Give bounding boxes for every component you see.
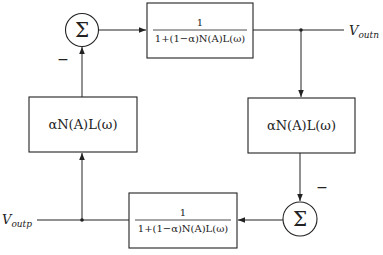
feedback-right-block: αN(A)L(ω) [248, 98, 355, 153]
sum-bottom: Σ [283, 202, 317, 236]
forward-bottom-numerator: 1 [180, 207, 186, 218]
forward-bottom-rect [129, 193, 237, 248]
sigma-icon: Σ [293, 207, 307, 231]
feedback-left-block: αN(A)L(ω) [29, 97, 137, 152]
forward-top-block: 1 1+(1−α)N(A)L(ω) [147, 3, 253, 58]
output-n-label: Voutn [349, 23, 379, 40]
forward-top-rect [147, 3, 253, 58]
feedback-left-label: αN(A)L(ω) [48, 117, 117, 132]
forward-bottom-denominator: 1+(1−α)N(A)L(ω) [138, 223, 229, 234]
sum-bottom-minus-sign: − [316, 179, 328, 195]
sum-top-minus-sign: − [57, 51, 69, 67]
output-p-label: Voutp [2, 212, 32, 229]
sigma-icon: Σ [75, 18, 89, 42]
forward-top-denominator: 1+(1−α)N(A)L(ω) [155, 33, 246, 44]
forward-bottom-block: 1 1+(1−α)N(A)L(ω) [129, 193, 237, 248]
feedback-right-label: αN(A)L(ω) [267, 118, 336, 133]
forward-top-numerator: 1 [197, 17, 203, 28]
block-diagram: Σ − 1 1+(1−α)N(A)L(ω) Voutn αN(A)L(ω) − … [0, 0, 383, 255]
sum-top: Σ [66, 14, 99, 47]
